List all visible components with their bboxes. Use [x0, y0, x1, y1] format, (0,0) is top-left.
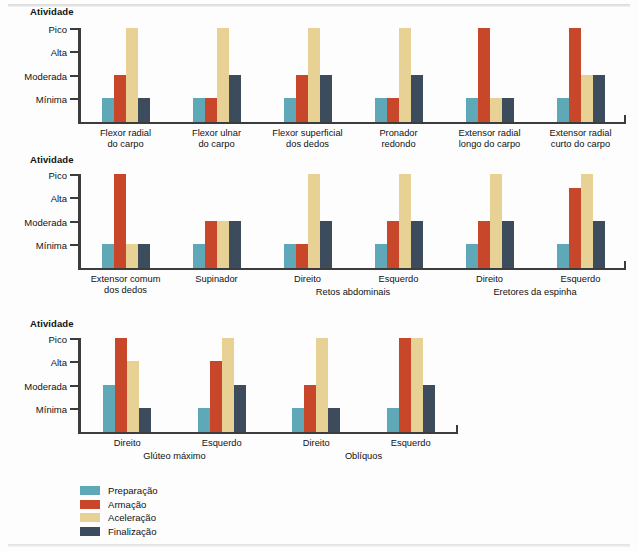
- bar-preparacao: [466, 244, 478, 267]
- legend-item: Aceleração: [80, 511, 158, 525]
- bar-preparacao: [193, 244, 205, 267]
- y-axis-title-1: Atividade: [30, 6, 74, 17]
- chart-panel-1: Atividade MínimaModeradaAltaPico Flexor …: [0, 6, 638, 154]
- bar-armacao: [387, 98, 399, 121]
- bar-group: [262, 174, 353, 268]
- plot-area-1: MínimaModeradaAltaPico: [78, 28, 626, 124]
- x-axis-tick-label: Esquerdo: [175, 438, 270, 449]
- chart-panel-3: Atividade MínimaModeradaAltaPico Direito…: [0, 318, 638, 478]
- bar-preparacao: [102, 244, 114, 267]
- bar-finalizacao: [411, 221, 423, 268]
- bar-armacao: [210, 361, 222, 431]
- y-axis-tick-label: Mínima: [36, 404, 78, 415]
- bar-finalizacao: [320, 75, 332, 122]
- x-axis-tick-label: Extensor radial curto do carpo: [535, 128, 626, 151]
- bar-armacao: [205, 221, 217, 268]
- bar-group: [262, 28, 353, 122]
- bar-group: [535, 28, 626, 122]
- x-axis-labels-3: DireitoEsquerdoDireitoEsquerdo: [80, 438, 458, 449]
- y-axis-tick-label: Alta: [51, 193, 78, 204]
- chart-legend: PreparaçãoArmaçãoAceleraçãoFinalização: [80, 484, 158, 538]
- y-axis-tick-label: Moderada: [24, 216, 78, 227]
- y-axis-tick-label: Pico: [49, 334, 78, 345]
- bar-armacao: [478, 28, 490, 122]
- y-axis-tick-label: Alta: [51, 357, 78, 368]
- bar-aceleracao: [581, 174, 593, 268]
- bar-preparacao: [557, 244, 569, 267]
- bar-armacao: [296, 244, 308, 267]
- x-axis-line: [78, 122, 626, 125]
- y-axis-tick-label: Moderada: [24, 70, 78, 81]
- bar-finalizacao: [229, 75, 241, 122]
- bar-aceleracao: [411, 338, 423, 432]
- legend-color-swatch: [80, 500, 100, 509]
- bar-aceleracao: [399, 174, 411, 268]
- bar-aceleracao: [126, 28, 138, 122]
- bar-aceleracao: [581, 75, 593, 122]
- x-axis-tick-label: Extensor radial longo do carpo: [444, 128, 535, 151]
- bar-group: [171, 174, 262, 268]
- legend-color-swatch: [80, 527, 100, 536]
- y-axis-tick-label: Moderada: [24, 380, 78, 391]
- bar-armacao: [114, 174, 126, 268]
- y-axis-tick-label: Mínima: [36, 240, 78, 251]
- x-axis-labels-1: Flexor radial do carpoFlexor ulnar do ca…: [80, 128, 626, 151]
- bar-finalizacao: [229, 221, 241, 268]
- legend-item-label: Preparação: [108, 485, 158, 496]
- legend-item: Preparação: [80, 484, 158, 498]
- x-axis-tick-label: Direito: [269, 438, 364, 449]
- bar-preparacao: [102, 98, 114, 121]
- bar-finalizacao: [502, 221, 514, 268]
- bar-armacao: [478, 221, 490, 268]
- bar-group: [175, 338, 270, 432]
- chart-panel-2: Atividade MínimaModeradaAltaPico Extenso…: [0, 154, 638, 314]
- bar-group: [269, 338, 364, 432]
- bar-group: [535, 174, 626, 268]
- bar-group: [80, 174, 171, 268]
- bar-preparacao: [387, 408, 399, 431]
- x-axis-tick-label: Flexor superficial dos dedos: [262, 128, 353, 151]
- x-axis-group-headers-2: Retos abdominaisEretores da espinha: [80, 287, 626, 300]
- bar-groups: [80, 174, 626, 268]
- x-axis-group-header: Glúteo máximo: [80, 451, 269, 462]
- bar-armacao: [569, 188, 581, 267]
- legend-item-label: Aceleração: [108, 512, 156, 523]
- bar-armacao: [296, 75, 308, 122]
- bar-finalizacao: [139, 408, 151, 431]
- bar-aceleracao: [316, 338, 328, 432]
- bar-finalizacao: [328, 408, 340, 431]
- plot-area-3: MínimaModeradaAltaPico: [78, 338, 458, 434]
- bar-aceleracao: [217, 221, 229, 268]
- plot-area-2: MínimaModeradaAltaPico: [78, 174, 626, 270]
- bar-preparacao: [193, 98, 205, 121]
- bar-aceleracao: [127, 361, 139, 431]
- legend-color-swatch: [80, 486, 100, 495]
- bar-preparacao: [557, 98, 569, 121]
- bar-group: [80, 338, 175, 432]
- x-axis-line: [78, 432, 458, 435]
- bar-finalizacao: [138, 98, 150, 121]
- y-axis-title-2: Atividade: [30, 154, 74, 165]
- figure-page: Atividade MínimaModeradaAltaPico Flexor …: [0, 0, 638, 551]
- bar-aceleracao: [308, 28, 320, 122]
- bar-armacao: [399, 338, 411, 432]
- bar-finalizacao: [423, 385, 435, 432]
- bar-group: [364, 338, 459, 432]
- bar-aceleracao: [126, 244, 138, 267]
- bar-finalizacao: [502, 98, 514, 121]
- bar-preparacao: [375, 244, 387, 267]
- bar-armacao: [114, 75, 126, 122]
- x-axis-tick-label: Flexor radial do carpo: [80, 128, 171, 151]
- y-axis-tick-label: Mínima: [36, 94, 78, 105]
- bar-finalizacao: [138, 244, 150, 267]
- bar-group: [80, 28, 171, 122]
- bar-armacao: [387, 221, 399, 268]
- bar-preparacao: [103, 385, 115, 432]
- bar-armacao: [115, 338, 127, 432]
- bar-aceleracao: [490, 98, 502, 121]
- bar-finalizacao: [593, 221, 605, 268]
- bar-finalizacao: [593, 75, 605, 122]
- bar-preparacao: [198, 408, 210, 431]
- x-axis-group-header: Retos abdominais: [262, 287, 444, 298]
- x-axis-line: [78, 268, 626, 271]
